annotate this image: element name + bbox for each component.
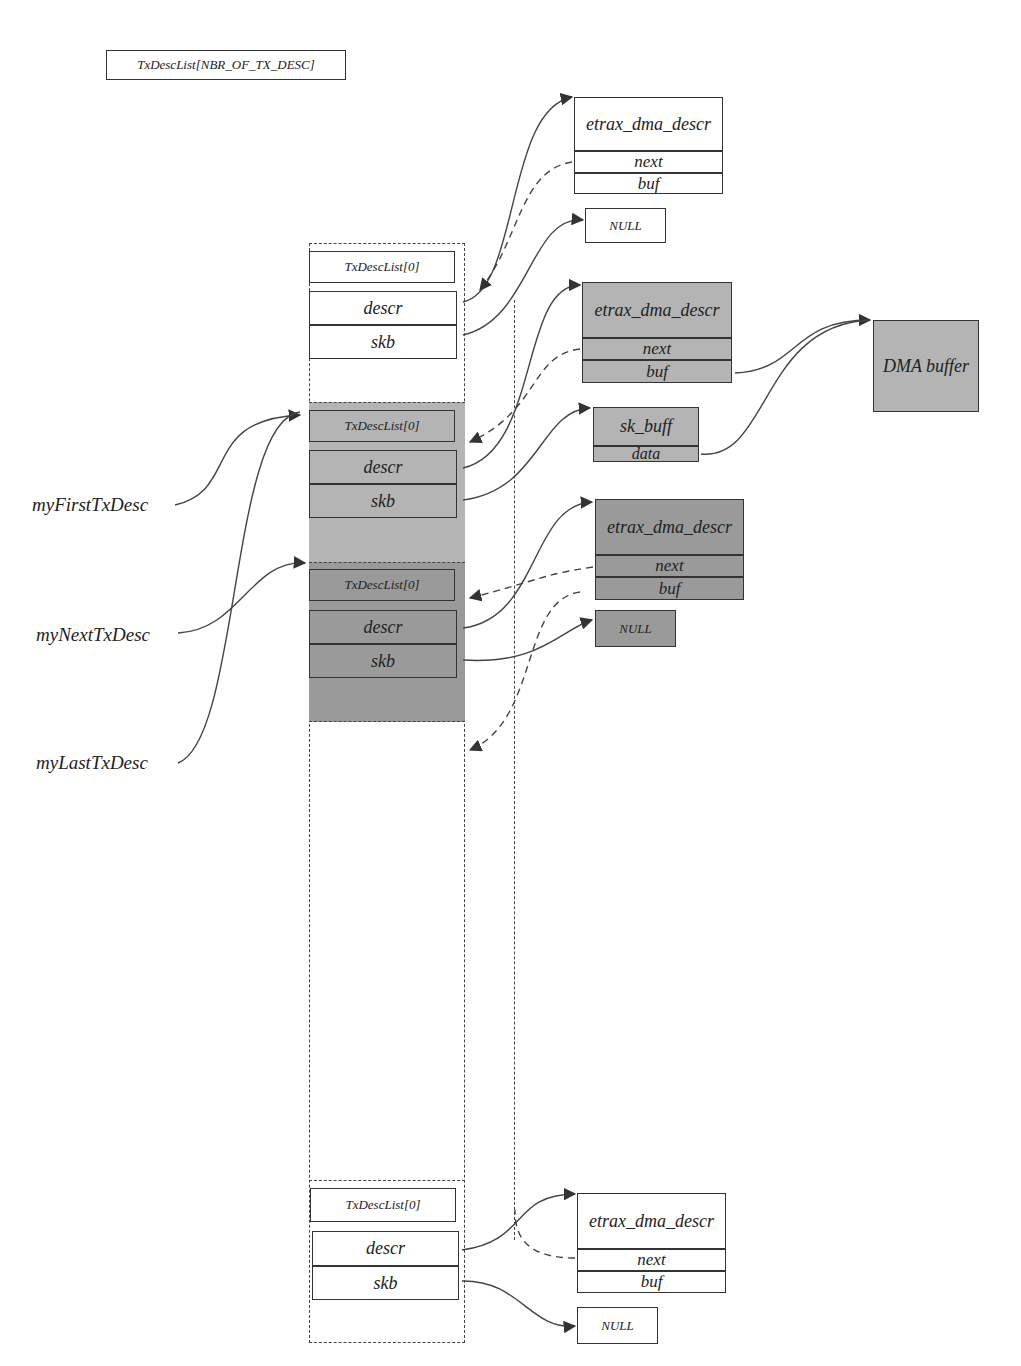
connector-lines [0,0,1021,1366]
tx-descriptor-diagram: TxDescList[NBR_OF_TX_DESC] TxDescList[0]… [0,0,1021,1366]
